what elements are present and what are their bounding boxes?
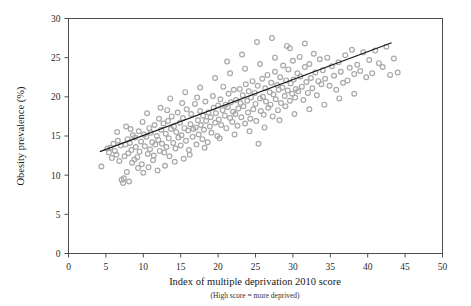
y-tick-label: 20 (51, 92, 61, 102)
data-point (332, 73, 337, 78)
data-point (168, 96, 173, 101)
data-point (231, 87, 236, 92)
data-point (265, 73, 270, 78)
data-point (137, 149, 142, 154)
data-point (269, 80, 274, 85)
data-point (319, 82, 324, 87)
data-point (325, 55, 330, 60)
x-tick-label: 15 (176, 262, 186, 272)
data-point (198, 109, 203, 114)
x-tick-label: 35 (326, 262, 336, 272)
data-point (189, 112, 194, 117)
data-point (209, 130, 214, 135)
data-point (323, 76, 328, 81)
data-point (352, 91, 357, 96)
data-point (285, 88, 290, 93)
data-point (183, 90, 188, 95)
data-point (129, 148, 134, 153)
y-tick-label: 15 (51, 131, 61, 141)
data-point (343, 53, 348, 58)
data-point (181, 156, 186, 161)
data-point (205, 140, 210, 145)
data-point (350, 47, 355, 52)
data-point (246, 110, 251, 115)
data-point (345, 78, 350, 83)
data-point (175, 110, 180, 115)
data-point (196, 118, 201, 123)
y-tick-label: 5 (56, 210, 61, 220)
data-point (260, 76, 265, 81)
y-axis-ticks: 051015202530 (51, 14, 69, 259)
data-point (186, 128, 191, 133)
data-point (198, 85, 203, 90)
data-point (262, 125, 267, 130)
y-axis-title: Obesity prevalence (%) (15, 86, 27, 186)
data-point (219, 123, 224, 128)
data-point (169, 114, 174, 119)
data-point (228, 71, 233, 76)
data-point (199, 123, 204, 128)
data-point (307, 107, 312, 112)
data-point (237, 87, 242, 92)
data-point (142, 144, 147, 149)
data-point (302, 41, 307, 46)
data-point (190, 134, 195, 139)
data-point (203, 99, 208, 104)
data-point (221, 84, 226, 89)
data-point (140, 120, 145, 125)
data-point (184, 138, 189, 143)
data-point (117, 159, 122, 164)
data-point (218, 97, 223, 102)
data-point (208, 115, 213, 120)
data-point (302, 65, 307, 70)
data-point (314, 93, 319, 98)
data-point (133, 145, 138, 150)
data-point (288, 98, 293, 103)
data-point (317, 57, 322, 62)
data-point (165, 108, 170, 113)
data-point (204, 119, 209, 124)
data-point (240, 93, 245, 98)
data-point (155, 168, 160, 173)
data-point (222, 113, 227, 118)
data-point (282, 94, 287, 99)
data-point (281, 63, 286, 68)
data-point (196, 132, 201, 137)
data-point (370, 71, 375, 76)
data-point (377, 61, 382, 66)
data-point (180, 101, 185, 106)
x-tick-label: 10 (139, 262, 149, 272)
data-point (292, 112, 297, 117)
data-point (151, 158, 156, 163)
data-point (230, 120, 235, 125)
data-point (347, 65, 352, 70)
data-point (395, 70, 400, 75)
data-point (239, 115, 244, 120)
data-point (240, 52, 245, 57)
y-tick-label: 0 (56, 249, 61, 259)
data-point (255, 40, 260, 45)
data-point (157, 116, 162, 121)
data-point (243, 82, 248, 87)
data-point (139, 139, 144, 144)
data-point (297, 54, 302, 59)
data-point (216, 117, 221, 122)
data-point (136, 129, 141, 134)
data-point (286, 67, 291, 72)
data-point (171, 141, 176, 146)
y-tick-label: 10 (51, 171, 61, 181)
data-point (367, 58, 372, 63)
x-tick-label: 40 (363, 262, 373, 272)
data-point (305, 91, 310, 96)
data-point (194, 142, 199, 147)
data-points-layer (99, 36, 400, 186)
data-point (163, 163, 168, 168)
data-point (188, 122, 193, 127)
data-point (173, 146, 178, 151)
data-point (270, 114, 275, 119)
data-point (178, 143, 183, 148)
data-point (162, 150, 167, 155)
data-point (152, 123, 157, 128)
data-point (304, 80, 309, 85)
data-point (299, 84, 304, 89)
